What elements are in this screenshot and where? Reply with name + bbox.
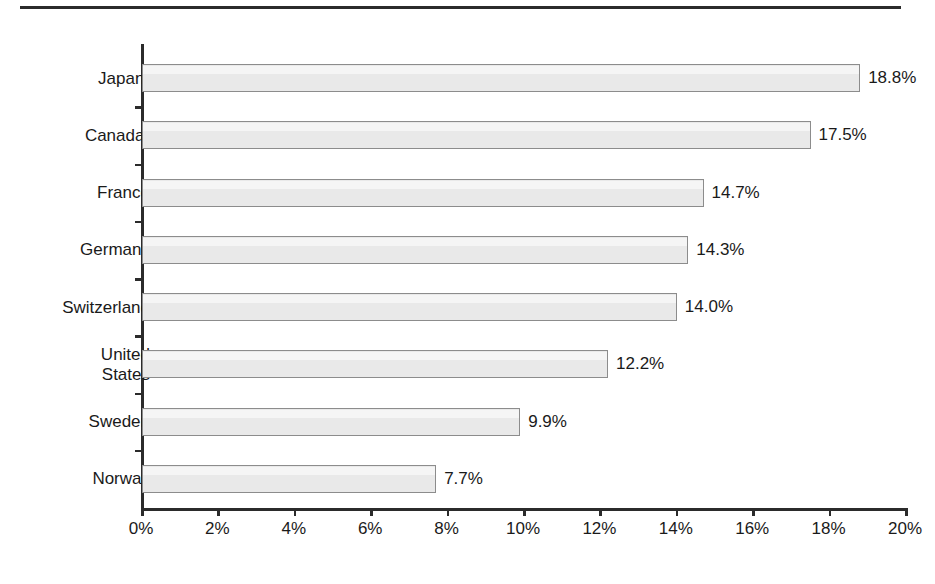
category-label: France [0,165,150,222]
x-axis-tick [141,508,144,516]
bar-value-label: 9.9% [528,408,567,436]
bar-value-label: 12.2% [616,350,664,378]
category-label-line: Germany [80,240,150,260]
bar [142,350,608,378]
x-axis-tick [294,508,297,516]
x-axis-tick [676,508,679,516]
category-label: Canadaa [0,107,150,164]
x-axis-tick-label: 18% [812,519,846,539]
x-axis-tick-label: 20% [888,519,922,539]
x-axis-tick-label: 12% [582,519,616,539]
bar-row: France14.7% [141,165,905,222]
x-axis-tick [217,508,220,516]
x-axis-tick [523,508,526,516]
bar-row: Sweden9.9% [141,394,905,451]
category-label: Japana [0,50,150,107]
bar [142,179,704,207]
bar-row: Japana18.8% [141,50,905,107]
x-axis-tick [447,508,450,516]
category-label-line: Switzerland [62,298,150,318]
category-label: Switzerland [0,279,150,336]
bar-value-label: 14.0% [685,293,733,321]
bar-value-label: 14.7% [712,179,760,207]
bar-row: Norway7.7% [141,451,905,508]
x-axis-tick-label: 0% [129,519,154,539]
x-axis-tick-label: 16% [735,519,769,539]
x-axis-tick-label: 14% [659,519,693,539]
category-label: Norway [0,451,150,508]
x-axis-tick-label: 10% [506,519,540,539]
x-axis-tick [829,508,832,516]
bar-row: Germany14.3% [141,222,905,279]
bar-value-label: 14.3% [696,236,744,264]
bar-value-label: 18.8% [868,64,916,92]
x-axis-tick [905,508,908,516]
bar-row: Canadaa17.5% [141,107,905,164]
bar [142,293,677,321]
bar-value-label: 7.7% [444,465,483,493]
bar [142,64,860,92]
x-axis-tick [370,508,373,516]
x-axis-tick-label: 8% [434,519,459,539]
x-axis-tick-label: 4% [282,519,307,539]
bar-row: Switzerland14.0% [141,279,905,336]
x-axis-tick-label: 2% [205,519,230,539]
bar-chart-figure: Japana18.8%Canadaa17.5%France14.7%German… [0,0,935,584]
x-axis-tick [752,508,755,516]
bar [142,465,436,493]
top-divider-rule [20,6,901,9]
category-label-line: Sweden [89,412,150,432]
x-axis-tick [599,508,602,516]
bar [142,408,520,436]
x-axis-tick-label: 6% [358,519,383,539]
category-label: Sweden [0,394,150,451]
bar-row: UnitedStates12.2% [141,336,905,393]
category-label: UnitedStates [0,336,150,393]
category-label: Germany [0,222,150,279]
bar-value-label: 17.5% [819,121,867,149]
bar [142,121,811,149]
category-label-line: Canadaa [85,126,150,146]
bar [142,236,688,264]
